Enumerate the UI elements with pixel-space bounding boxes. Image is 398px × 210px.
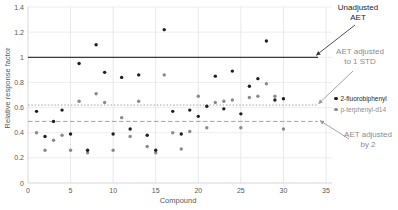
data-point <box>94 43 97 46</box>
x-axis-title: Compound <box>28 196 328 205</box>
data-point <box>180 147 183 150</box>
y-tick-labels: 00.20.40.60.811.21.4 <box>14 4 24 187</box>
annotation-aet-adjusted-by2: AET adjusted by 2 <box>340 130 396 150</box>
data-point <box>146 134 149 137</box>
annotation-aet-adjusted-1std-line1: AET adjusted <box>326 47 394 57</box>
data-point <box>197 95 200 98</box>
data-point <box>52 139 55 142</box>
data-point <box>86 149 89 152</box>
data-point <box>188 108 191 111</box>
data-point <box>239 126 242 129</box>
data-point <box>111 149 114 152</box>
legend-label-2-fluorobiphenyl: 2-fluorobiphenyl <box>341 95 387 102</box>
data-point <box>60 108 63 111</box>
y-axis-title: Relative response factor <box>3 28 12 148</box>
gray-dot-marker-icon <box>334 108 338 112</box>
data-point <box>35 131 38 134</box>
data-point <box>146 145 149 148</box>
series-points-p-terphenyl-d14 <box>35 73 285 154</box>
data-point <box>154 149 157 152</box>
data-point <box>180 132 183 135</box>
data-point <box>120 116 123 119</box>
svg-text:20: 20 <box>194 187 202 194</box>
data-point <box>248 85 251 88</box>
data-point <box>120 76 123 79</box>
data-point <box>273 98 276 101</box>
svg-text:5: 5 <box>69 187 73 194</box>
svg-text:1.4: 1.4 <box>14 4 24 11</box>
data-point <box>256 77 259 80</box>
data-point <box>273 95 276 98</box>
svg-text:0.4: 0.4 <box>14 129 24 136</box>
data-point <box>256 95 259 98</box>
data-point <box>111 132 114 135</box>
data-point <box>137 100 140 103</box>
data-point <box>103 101 106 104</box>
svg-text:10: 10 <box>109 187 117 194</box>
legend-item-p-terphenyl-d14: p-terphenyl-d14 <box>334 104 387 115</box>
data-point <box>231 98 234 101</box>
black-dot-marker-icon <box>334 97 338 101</box>
legend-item-2-fluorobiphenyl: 2-fluorobiphenyl <box>334 93 387 104</box>
data-point <box>103 71 106 74</box>
data-point <box>282 127 285 130</box>
data-point <box>171 131 174 134</box>
data-point <box>239 112 242 115</box>
data-point <box>231 69 234 72</box>
data-point <box>94 92 97 95</box>
svg-text:0.6: 0.6 <box>14 104 24 111</box>
data-point <box>69 132 72 135</box>
legend: 2-fluorobiphenyl p-terphenyl-d14 <box>334 93 387 115</box>
svg-text:30: 30 <box>280 187 288 194</box>
svg-text:0.8: 0.8 <box>14 79 24 86</box>
data-point <box>35 110 38 113</box>
svg-text:25: 25 <box>237 187 245 194</box>
data-point <box>222 107 225 110</box>
data-point <box>69 149 72 152</box>
data-point <box>137 73 140 76</box>
data-point <box>265 82 268 85</box>
data-point <box>205 105 208 108</box>
data-point <box>163 28 166 31</box>
series-points-2-fluorobiphenyl <box>35 28 285 152</box>
annotation-unadjusted-aet-line1: Unadjusted <box>326 3 390 13</box>
svg-text:15: 15 <box>152 187 160 194</box>
horizontal-gridlines <box>28 7 332 158</box>
annotation-aet-adjusted-by2-line1: AET adjusted <box>340 130 396 140</box>
data-point <box>163 73 166 76</box>
annotation-aet-adjusted-1std-line2: to 1 STD <box>326 57 394 67</box>
data-point <box>214 74 217 77</box>
data-point <box>52 120 55 123</box>
data-point <box>265 39 268 42</box>
data-point <box>222 100 225 103</box>
svg-text:35: 35 <box>322 187 330 194</box>
data-point <box>43 135 46 138</box>
data-point <box>205 126 208 129</box>
data-point <box>171 110 174 113</box>
svg-text:0.2: 0.2 <box>14 154 24 161</box>
annotation-aet-adjusted-1std: AET adjusted to 1 STD <box>326 47 394 67</box>
annotation-aet-adjusted-by2-line2: by 2 <box>340 140 396 150</box>
data-point <box>60 134 63 137</box>
data-point <box>77 62 80 65</box>
annotation-unadjusted-aet: Unadjusted AET <box>326 3 390 23</box>
data-point <box>282 97 285 100</box>
x-tick-labels: 05101520253035 <box>26 187 330 194</box>
svg-text:0: 0 <box>20 180 24 187</box>
chart-figure: 0510152025303500.20.40.60.811.21.4 Relat… <box>0 0 398 210</box>
data-point <box>248 96 251 99</box>
data-point <box>197 115 200 118</box>
data-point <box>188 130 191 133</box>
data-point <box>43 149 46 152</box>
data-point <box>77 100 80 103</box>
svg-text:0: 0 <box>26 187 30 194</box>
svg-text:1.2: 1.2 <box>14 29 24 36</box>
data-point <box>128 127 131 130</box>
data-point <box>214 101 217 104</box>
svg-text:1: 1 <box>20 54 24 61</box>
axis-spines <box>28 7 332 183</box>
legend-label-p-terphenyl-d14: p-terphenyl-d14 <box>341 106 387 113</box>
data-point <box>128 135 131 138</box>
annotation-unadjusted-aet-line2: AET <box>326 13 390 23</box>
